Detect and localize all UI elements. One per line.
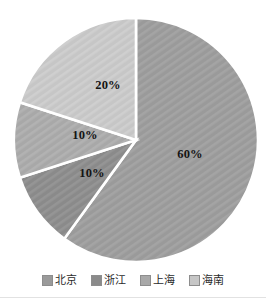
legend-item-shanghai[interactable]: 上海 bbox=[140, 275, 175, 286]
slice-label-beijing: 60% bbox=[177, 147, 203, 161]
legend-swatch-hainan bbox=[189, 275, 200, 286]
bottom-divider bbox=[0, 297, 266, 298]
chart-legend: 北京 浙江 上海 海南 bbox=[0, 268, 266, 292]
legend-item-hainan[interactable]: 海南 bbox=[189, 275, 224, 286]
legend-item-beijing[interactable]: 北京 bbox=[42, 275, 77, 286]
slice-label-zhejiang: 10% bbox=[79, 166, 105, 180]
legend-label-beijing: 北京 bbox=[55, 275, 77, 286]
slice-label-shanghai: 10% bbox=[72, 128, 98, 142]
legend-label-zhejiang: 浙江 bbox=[104, 275, 126, 286]
pie-chart-figure: 60% 10% 10% 20% 北京 浙江 上海 海南 bbox=[0, 0, 266, 299]
legend-label-shanghai: 上海 bbox=[153, 275, 175, 286]
legend-label-hainan: 海南 bbox=[202, 275, 224, 286]
legend-swatch-zhejiang bbox=[91, 275, 102, 286]
legend-swatch-shanghai bbox=[140, 275, 151, 286]
legend-item-zhejiang[interactable]: 浙江 bbox=[91, 275, 126, 286]
legend-swatch-beijing bbox=[42, 275, 53, 286]
slice-label-hainan: 20% bbox=[95, 78, 121, 92]
pie-chart-canvas: 60% 10% 10% 20% bbox=[0, 0, 266, 262]
